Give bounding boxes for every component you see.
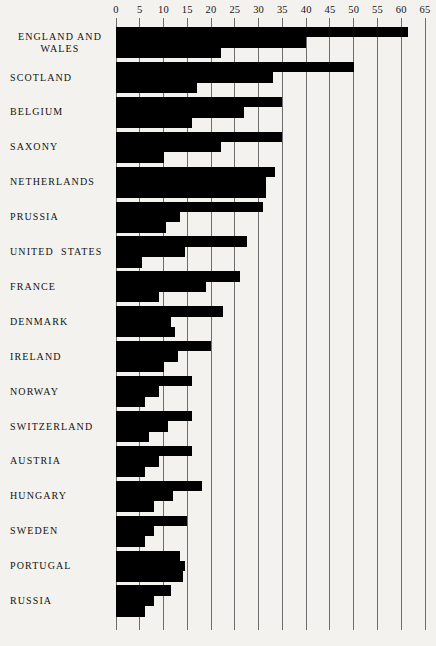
- x-tick-label-20: 20: [206, 4, 217, 15]
- bar: [116, 386, 159, 396]
- category-label-scotland: SCOTLAND: [10, 72, 110, 84]
- bar: [116, 152, 164, 162]
- bar: [116, 421, 168, 431]
- x-tick-label-45: 45: [324, 4, 335, 15]
- bar: [116, 118, 192, 128]
- bar: [116, 271, 240, 281]
- x-tick-label-25: 25: [229, 4, 240, 15]
- bar: [116, 606, 145, 616]
- gridline-65: [425, 18, 426, 630]
- bar: [116, 446, 192, 456]
- x-tick-label-60: 60: [396, 4, 407, 15]
- bar-chart: 05101520253035404550556065 ENGLAND AND W…: [0, 0, 436, 646]
- bar: [116, 596, 154, 606]
- x-tick-label-65: 65: [420, 4, 431, 15]
- bar: [116, 317, 171, 327]
- bar: [116, 27, 408, 37]
- bar: [116, 501, 154, 511]
- bar: [116, 516, 187, 526]
- bar: [116, 327, 175, 337]
- bar: [116, 72, 273, 82]
- bar: [116, 257, 142, 267]
- category-label-norway: NORWAY: [10, 386, 110, 398]
- gridline-50: [353, 18, 354, 630]
- bar: [116, 585, 171, 595]
- bar: [116, 212, 180, 222]
- bar: [116, 167, 275, 177]
- bar: [116, 142, 221, 152]
- x-tick-label-30: 30: [253, 4, 264, 15]
- bar: [116, 97, 282, 107]
- bar: [116, 202, 263, 212]
- bar: [116, 467, 145, 477]
- category-label-switzerland: SWITZERLAND: [10, 421, 110, 433]
- bar: [116, 222, 166, 232]
- gridline-35: [282, 18, 283, 630]
- x-tick-label-40: 40: [301, 4, 312, 15]
- category-label-belgium: BELGIUM: [10, 106, 110, 118]
- gridline-40: [306, 18, 307, 630]
- category-label-denmark: DENMARK: [10, 316, 110, 328]
- category-label-netherlands: NETHERLANDS: [10, 176, 110, 188]
- category-label-united-states: UNITED STATES: [10, 246, 110, 258]
- bar: [116, 561, 185, 571]
- category-label-prussia: PRUSSIA: [10, 211, 110, 223]
- bar: [116, 62, 354, 72]
- bar: [116, 481, 202, 491]
- bar: [116, 341, 211, 351]
- bar: [116, 551, 180, 561]
- bar: [116, 177, 266, 187]
- category-label-hungary: HUNGARY: [10, 490, 110, 502]
- gridline-45: [329, 18, 330, 630]
- category-label-england-and-wales: ENGLAND AND WALES: [10, 31, 110, 55]
- gridline-60: [401, 18, 402, 630]
- gridline-55: [377, 18, 378, 630]
- bar: [116, 282, 206, 292]
- x-tick-label-50: 50: [348, 4, 359, 15]
- category-label-austria: AUSTRIA: [10, 455, 110, 467]
- category-label-saxony: SAXONY: [10, 141, 110, 153]
- bar: [116, 107, 244, 117]
- bar: [116, 83, 197, 93]
- bar: [116, 48, 221, 58]
- bar: [116, 526, 154, 536]
- bar: [116, 306, 223, 316]
- bar: [116, 351, 178, 361]
- bar: [116, 571, 183, 581]
- gridline-30: [258, 18, 259, 630]
- bar: [116, 362, 164, 372]
- bar: [116, 411, 192, 421]
- category-label-ireland: IRELAND: [10, 351, 110, 363]
- category-label-russia: RUSSIA: [10, 595, 110, 607]
- x-tick-label-5: 5: [137, 4, 142, 15]
- x-tick-label-0: 0: [113, 4, 118, 15]
- x-tick-label-15: 15: [182, 4, 193, 15]
- bar: [116, 132, 282, 142]
- bar: [116, 236, 247, 246]
- x-tick-label-35: 35: [277, 4, 288, 15]
- bar: [116, 376, 192, 386]
- bar: [116, 397, 145, 407]
- bar: [116, 37, 306, 47]
- bar: [116, 536, 145, 546]
- bar: [116, 432, 149, 442]
- bar: [116, 247, 185, 257]
- bar: [116, 491, 173, 501]
- category-label-france: FRANCE: [10, 281, 110, 293]
- x-tick-label-10: 10: [158, 4, 169, 15]
- bar: [116, 456, 159, 466]
- category-label-portugal: PORTUGAL: [10, 560, 110, 572]
- bar: [116, 187, 266, 197]
- category-label-sweden: SWEDEN: [10, 525, 110, 537]
- bar: [116, 292, 159, 302]
- x-tick-label-55: 55: [372, 4, 383, 15]
